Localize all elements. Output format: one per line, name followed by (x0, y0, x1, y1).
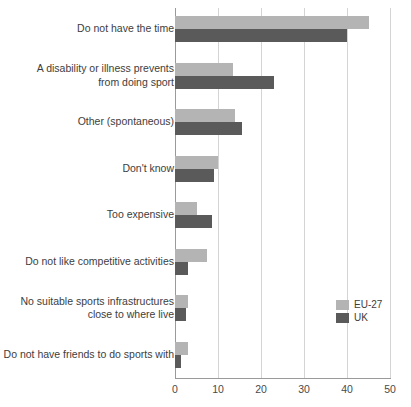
legend-item-uk[interactable]: UK (336, 312, 382, 324)
legend-swatch-icon-uk (336, 313, 349, 323)
bar-uk-3[interactable] (175, 169, 214, 182)
bar-uk-5[interactable] (175, 262, 188, 275)
bar-eu-27-0[interactable] (175, 16, 369, 29)
bar-eu-27-2[interactable] (175, 109, 235, 122)
x-tick-label-10: 10 (212, 383, 224, 396)
legend-item-eu27[interactable]: EU-27 (336, 299, 382, 311)
category-label-6: No suitable sports infrastructures close… (0, 295, 174, 322)
x-tick-label-0: 0 (172, 383, 178, 396)
bar-group (175, 342, 390, 368)
bar-eu-27-6[interactable] (175, 295, 188, 308)
bar-uk-2[interactable] (175, 122, 242, 135)
category-label-0: Do not have the time (0, 22, 174, 36)
category-label-3: Don't know (0, 162, 174, 176)
bar-eu-27-5[interactable] (175, 249, 207, 262)
bar-group (175, 202, 390, 228)
legend: EU-27 UK (336, 299, 382, 325)
legend-label-eu27: EU-27 (354, 299, 382, 311)
bar-group (175, 63, 390, 89)
bar-group (175, 156, 390, 182)
category-label-7: Do not have friends to do sports with (0, 348, 174, 362)
x-tick-label-30: 30 (298, 383, 310, 396)
bar-group (175, 16, 390, 42)
x-axis-line (175, 378, 391, 379)
bar-eu-27-3[interactable] (175, 156, 218, 169)
bar-group (175, 249, 390, 275)
bar-uk-1[interactable] (175, 76, 274, 89)
bar-eu-27-4[interactable] (175, 202, 197, 215)
category-label-2: Other (spontaneous) (0, 115, 174, 129)
horizontal-bar-chart: 01020304050 Do not have the timeA disabi… (0, 0, 411, 407)
bar-eu-27-7[interactable] (175, 342, 188, 355)
bar-uk-7[interactable] (175, 355, 181, 368)
legend-label-uk: UK (354, 312, 368, 324)
x-tick-label-40: 40 (341, 383, 353, 396)
category-label-5: Do not like competitive activities (0, 255, 174, 269)
bar-eu-27-1[interactable] (175, 63, 233, 76)
bar-group (175, 109, 390, 135)
bar-uk-0[interactable] (175, 29, 347, 42)
gridline-50 (390, 8, 391, 378)
x-tick-label-50: 50 (384, 383, 396, 396)
bar-uk-6[interactable] (175, 308, 186, 321)
legend-swatch-icon-eu27 (336, 300, 349, 310)
x-tick-label-20: 20 (255, 383, 267, 396)
category-label-1: A disability or illness prevents from do… (0, 62, 174, 89)
category-label-4: Too expensive (0, 208, 174, 222)
bar-uk-4[interactable] (175, 215, 212, 228)
